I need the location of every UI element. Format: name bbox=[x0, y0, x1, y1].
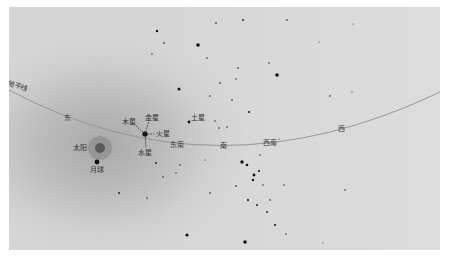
venus-label: 金星 bbox=[145, 115, 159, 122]
moon-icon bbox=[95, 160, 100, 165]
sun-icon bbox=[95, 143, 105, 153]
direction-south-label: 南 bbox=[220, 143, 227, 150]
saturn-icon bbox=[188, 121, 191, 124]
sun-label: 太阳 bbox=[73, 145, 87, 152]
saturn-label: 土星 bbox=[191, 115, 205, 122]
sky-layer bbox=[9, 7, 440, 250]
mercury-label: 水星 bbox=[138, 150, 152, 157]
moon-label: 月球 bbox=[90, 167, 104, 174]
direction-southwest-label: 西南 bbox=[263, 140, 277, 147]
direction-west-label: 西 bbox=[338, 126, 345, 133]
horizon-line bbox=[9, 90, 440, 146]
mars-label: 火星 bbox=[156, 131, 170, 138]
direction-east-label: 东 bbox=[64, 115, 71, 122]
direction-southeast-label: 东南 bbox=[170, 142, 184, 149]
stars bbox=[118, 19, 353, 244]
jupiter-label: 木星 bbox=[122, 119, 136, 126]
sky-chart: 地平线 东 东南 南 西南 西 太阳 月球 木星 金星 火星 水星 土星 bbox=[9, 7, 440, 250]
